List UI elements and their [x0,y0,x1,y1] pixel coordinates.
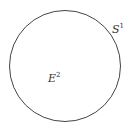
interior-label-sup: 2 [56,71,60,79]
diagram-canvas: S1 E2 [0,0,133,134]
boundary-label-sup: 1 [120,22,124,30]
interior-label: E2 [47,71,61,85]
circle-boundary [10,11,121,122]
interior-label-base: E [47,72,56,85]
boundary-label: S1 [112,22,124,36]
